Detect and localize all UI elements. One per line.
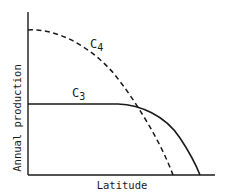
- c3-curve: [28, 104, 200, 175]
- y-axis-label: Annual production: [11, 64, 23, 171]
- x-axis-label: Latitude: [97, 179, 148, 191]
- c3-label: C3: [72, 86, 85, 102]
- c4-label: C4: [90, 37, 103, 53]
- chart-figure: C4 C3 Latitude Annual production: [0, 0, 225, 196]
